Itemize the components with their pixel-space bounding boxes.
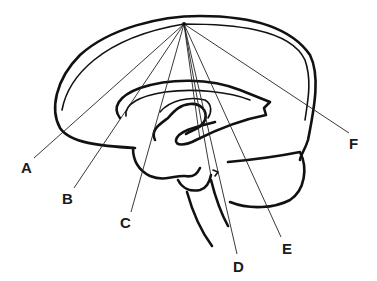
brain-drawing <box>0 0 377 281</box>
label-d: D <box>233 259 244 274</box>
pons <box>178 175 211 191</box>
fourth-ventricle <box>213 170 218 176</box>
apex-point <box>182 22 186 26</box>
medulla <box>187 192 212 246</box>
leader-lines <box>34 24 349 254</box>
cerebrum-outline <box>55 16 315 160</box>
label-c: C <box>120 215 131 230</box>
leader-line-extra-2 <box>184 24 211 176</box>
label-b: B <box>62 191 73 206</box>
leader-line-d <box>184 24 237 254</box>
cerebellum <box>228 152 304 207</box>
label-a: A <box>21 160 32 175</box>
leader-line-c <box>131 24 184 212</box>
midbrain <box>133 148 200 178</box>
label-f: F <box>349 136 358 151</box>
label-e: E <box>282 241 292 256</box>
